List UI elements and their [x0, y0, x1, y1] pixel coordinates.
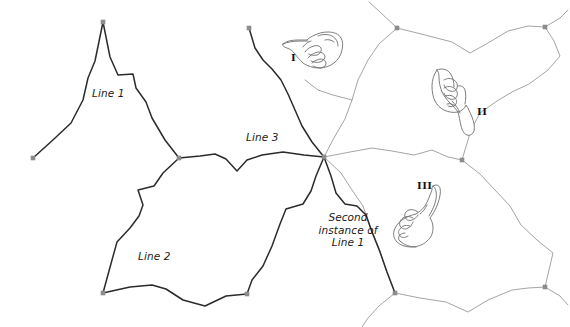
- label-second-instance-row-1: Second: [306, 211, 390, 224]
- gray-top-right: [397, 26, 545, 53]
- path-line-2: [103, 158, 247, 306]
- label-line-1: Line 1: [92, 87, 125, 100]
- node-mid-left: [177, 156, 182, 161]
- label-second-instance-row-2: instance of: [306, 224, 390, 237]
- node-hub: [322, 155, 327, 160]
- light-polyline-group: [305, 2, 568, 327]
- gray-bottom: [395, 287, 545, 312]
- node-right-upper: [543, 25, 548, 30]
- path-line-3-left: [179, 152, 324, 171]
- gray-right-upper: [462, 27, 560, 160]
- node-left-end: [31, 156, 36, 161]
- node-bottom-mid: [245, 292, 250, 297]
- diagram-canvas: Line 1 Line 2 Line 3 Second instance of …: [0, 0, 570, 327]
- diagram-svg: [0, 0, 570, 327]
- numeral-i-label: I: [291, 52, 296, 63]
- numeral-iii-label: III: [417, 180, 433, 191]
- node-right-lower: [543, 285, 548, 290]
- label-second-instance-row-3: Line 1: [306, 236, 390, 249]
- hand-iii-icon: [394, 185, 441, 247]
- gray-hub-right: [324, 148, 462, 160]
- node-bottom-gray: [393, 291, 398, 296]
- gray-left-cell: [305, 80, 352, 100]
- label-line-2: Line 2: [138, 250, 171, 263]
- hand-ii-icon: [432, 69, 474, 135]
- gray-right-tail: [545, 10, 568, 27]
- gray-right-lowtail: [545, 287, 568, 305]
- label-line-3: Line 3: [246, 131, 279, 144]
- node-bottom-left: [101, 291, 106, 296]
- node-upper-gray: [395, 26, 400, 31]
- gray-bottom-left: [362, 293, 395, 327]
- gray-right-down: [462, 160, 553, 287]
- node-line3-end: [247, 26, 252, 31]
- node-gray-mid: [460, 158, 465, 163]
- vertex-node-group: [31, 20, 548, 297]
- label-second-instance-of-line-1: Second instance of Line 1: [306, 211, 390, 249]
- node-top-peak: [101, 20, 106, 25]
- numeral-ii-label: II: [477, 106, 487, 117]
- dark-polyline-group: [33, 22, 395, 306]
- gray-top-left-edge: [369, 2, 397, 28]
